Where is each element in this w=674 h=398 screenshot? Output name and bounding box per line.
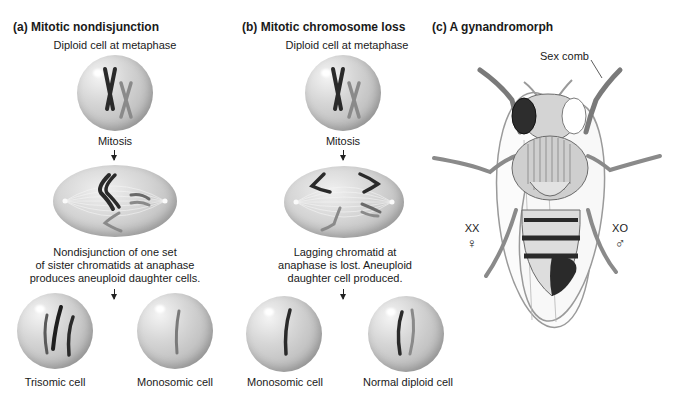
panel-b-anaphase-spindle — [284, 166, 404, 238]
normal-diploid-label: Normal diploid cell — [356, 376, 460, 388]
panel-a-monosomic-label: Monosomic cell — [128, 376, 222, 388]
male-genotype-label: XO — [608, 222, 632, 234]
panel-a-anaphase-spindle — [53, 165, 177, 237]
panel-b-monosomic-chromosome — [246, 296, 322, 372]
panel-a-mitosis-label: Mitosis — [85, 135, 145, 147]
arrow-down-icon — [114, 150, 115, 160]
caption-line: anaphase is lost. Aneuploid — [265, 259, 425, 272]
female-symbol-icon: ♀ — [460, 235, 484, 251]
female-genotype-label: XX — [460, 222, 484, 234]
panel-b-top-label: Diploid cell at metaphase — [282, 39, 412, 51]
caption-line: Nondisjunction of one set — [25, 246, 205, 259]
trisomic-chromosomes — [17, 293, 93, 369]
male-symbol-icon: ♂ — [608, 235, 632, 251]
panel-c-title: (c) A gynandromorph — [432, 20, 553, 34]
trisomic-cell-label: Trisomic cell — [15, 376, 95, 388]
panel-b-caption: Lagging chromatid at anaphase is lost. A… — [265, 246, 425, 285]
arrow-down-icon — [114, 289, 115, 299]
panel-b-title: (b) Mitotic chromosome loss — [242, 20, 405, 34]
panel-a-monosomic-chromosome — [137, 293, 213, 369]
panel-a-metaphase-chromosomes — [77, 55, 153, 131]
panel-b-monosomic-label: Monosomic cell — [238, 376, 332, 388]
panel-a-title: (a) Mitotic nondisjunction — [13, 20, 159, 34]
panel-a-top-label: Diploid cell at metaphase — [50, 39, 180, 51]
panel-b-metaphase-chromosomes — [305, 55, 381, 131]
panel-b-mitosis-label: Mitosis — [313, 135, 373, 147]
arrow-down-icon — [343, 150, 344, 160]
caption-line: Lagging chromatid at — [265, 246, 425, 259]
gynandromorph-fly — [420, 60, 674, 340]
caption-line: daughter cell produced. — [265, 272, 425, 285]
caption-line: of sister chromatids at anaphase — [25, 259, 205, 272]
arrow-down-icon — [343, 289, 344, 299]
caption-line: produces aneuploid daughter cells. — [25, 272, 205, 285]
panel-a-caption: Nondisjunction of one set of sister chro… — [25, 246, 205, 285]
